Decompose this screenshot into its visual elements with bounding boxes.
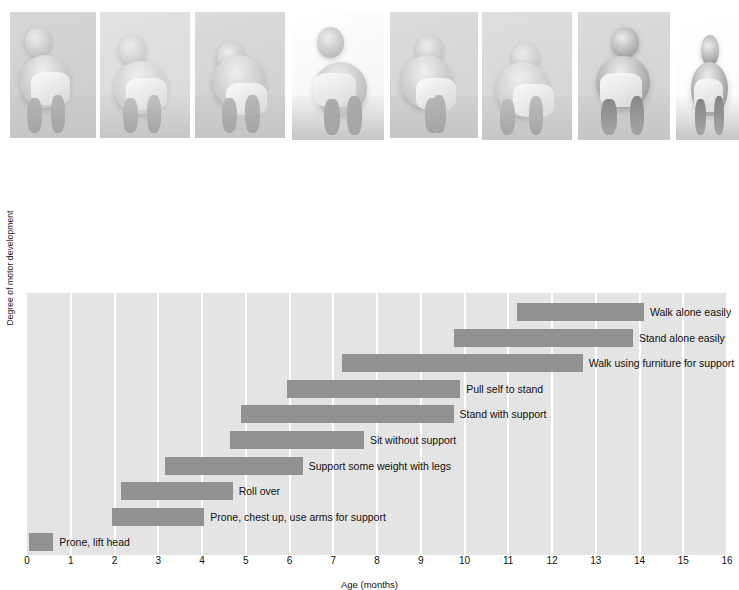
gridline-month-9 <box>420 293 422 555</box>
x-tick-11: 11 <box>503 555 513 566</box>
x-tick-6: 6 <box>287 555 293 566</box>
photo-sit-without-support <box>292 12 384 140</box>
bar-label: Stand with support <box>454 405 547 423</box>
bar-label: Walk alone easily <box>644 303 731 321</box>
x-tick-14: 14 <box>634 555 645 566</box>
x-tick-15: 15 <box>678 555 689 566</box>
x-tick-3: 3 <box>155 555 161 566</box>
bar-milestone <box>454 329 633 347</box>
bar-milestone <box>165 457 303 475</box>
x-tick-0: 0 <box>24 555 30 566</box>
bar-milestone <box>342 354 583 372</box>
bar-milestone <box>287 380 460 398</box>
gridline-month-16 <box>726 293 728 555</box>
bar-milestone <box>121 482 233 500</box>
photo-support-weight-legs <box>195 12 285 138</box>
x-axis-title: Age (months) <box>0 579 739 590</box>
x-tick-4: 4 <box>199 555 205 566</box>
x-tick-7: 7 <box>330 555 336 566</box>
photo-walk-alone <box>676 12 739 140</box>
x-tick-16: 16 <box>721 555 732 566</box>
bar-label: Roll over <box>233 482 280 500</box>
bar-milestone <box>241 405 453 423</box>
photo-walk-with-support <box>578 12 670 140</box>
x-tick-9: 9 <box>418 555 424 566</box>
x-tick-8: 8 <box>374 555 380 566</box>
bar-label: Prone, chest up, use arms for support <box>204 508 386 526</box>
bar-milestone <box>112 508 204 526</box>
x-tick-5: 5 <box>243 555 249 566</box>
photo-prone-lift-head <box>10 12 96 138</box>
bar-label: Prone, lift head <box>53 533 130 551</box>
x-tick-1: 1 <box>68 555 74 566</box>
bar-label: Sit without support <box>364 431 456 449</box>
x-axis-ticks: 012345678910111213141516 <box>27 555 727 577</box>
bar-label: Stand alone easily <box>633 329 725 347</box>
x-tick-13: 13 <box>590 555 601 566</box>
photo-roll-over <box>100 12 190 138</box>
x-tick-10: 10 <box>459 555 470 566</box>
bar-milestone <box>517 303 644 321</box>
motor-development-chart: Walk alone easilyStand alone easilyWalk … <box>0 145 739 459</box>
photo-stand-with-support <box>482 12 572 140</box>
bar-label: Pull self to stand <box>460 380 543 398</box>
infant-photo-strip <box>0 0 739 145</box>
x-tick-12: 12 <box>546 555 557 566</box>
plot-area: Walk alone easilyStand alone easilyWalk … <box>27 293 727 555</box>
bar-label: Support some weight with legs <box>303 457 451 475</box>
photo-pull-self-to-stand <box>390 12 478 138</box>
bar-milestone <box>29 533 53 551</box>
bar-label: Walk using furniture for support <box>583 354 735 372</box>
x-tick-2: 2 <box>112 555 118 566</box>
bar-milestone <box>230 431 363 449</box>
gridline-month-1 <box>70 293 72 555</box>
